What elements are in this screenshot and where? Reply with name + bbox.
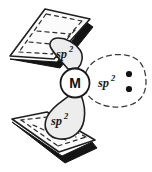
metal-center: M (61, 69, 90, 98)
lone-pair-outline (86, 55, 146, 108)
lone-pair-orbital-label-superscript: 2 (110, 73, 116, 83)
lower-left-orbital-label-superscript: 2 (63, 111, 69, 121)
orbital-diagram: M sp 2 sp 2 sp 2 (0, 0, 152, 172)
electron-dot (126, 71, 132, 77)
electron-dot (126, 86, 132, 92)
lone-pair-orbital-label: sp 2 (97, 73, 116, 90)
lone-pair-lobe (86, 55, 146, 108)
upper-left-orbital-label-superscript: 2 (68, 44, 74, 54)
lone-pair-orbital-label-base: sp (97, 76, 109, 90)
metal-symbol: M (69, 75, 81, 91)
lower-left-orbital-label-base: sp (50, 114, 62, 128)
diagram-canvas: M sp 2 sp 2 sp 2 (0, 0, 152, 172)
upper-left-orbital-label-base: sp (55, 47, 67, 61)
